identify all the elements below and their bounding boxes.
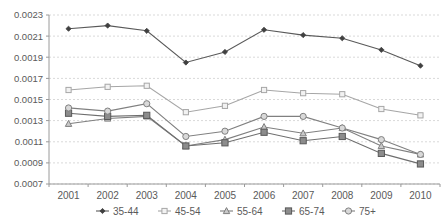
data-point bbox=[261, 113, 267, 119]
data-point bbox=[183, 143, 189, 149]
data-point bbox=[340, 36, 345, 41]
axes bbox=[46, 15, 440, 187]
data-point bbox=[417, 161, 423, 167]
data-series-group bbox=[65, 23, 423, 167]
data-point bbox=[222, 128, 228, 134]
data-point bbox=[300, 113, 306, 119]
line-chart: 0.00230.00210.00190.00170.00150.00130.00… bbox=[0, 0, 445, 223]
x-tick-label: 2008 bbox=[331, 190, 354, 201]
data-point bbox=[183, 133, 189, 139]
x-tick-label: 2006 bbox=[253, 190, 276, 201]
data-point bbox=[261, 27, 266, 32]
data-point bbox=[340, 92, 345, 97]
series-line bbox=[69, 104, 421, 155]
x-tick-label: 2010 bbox=[409, 190, 432, 201]
x-axis-tick-labels: 2001200220032004200520062007200820092010 bbox=[57, 190, 432, 201]
series-65-74 bbox=[65, 110, 423, 167]
legend-item-75+[interactable]: 75+ bbox=[342, 206, 376, 217]
legend-item-label: 55-64 bbox=[237, 206, 263, 217]
y-tick-label: 0.0015 bbox=[14, 94, 43, 105]
x-tick-label: 2003 bbox=[136, 190, 159, 201]
data-point bbox=[378, 137, 384, 143]
data-point bbox=[379, 47, 384, 52]
data-point bbox=[417, 151, 423, 157]
legend-item-label: 65-74 bbox=[299, 206, 325, 217]
data-point bbox=[66, 26, 71, 31]
legend-item-label: 75+ bbox=[359, 206, 376, 217]
data-point bbox=[65, 105, 71, 111]
y-tick-label: 0.0013 bbox=[14, 115, 43, 126]
data-point bbox=[261, 87, 266, 92]
data-point bbox=[379, 106, 384, 111]
data-point bbox=[418, 113, 423, 118]
data-point bbox=[222, 49, 227, 54]
x-tick-label: 2007 bbox=[292, 190, 315, 201]
legend-marker-icon bbox=[345, 208, 351, 214]
data-point bbox=[301, 32, 306, 37]
data-point bbox=[105, 108, 111, 114]
x-tick-label: 2009 bbox=[370, 190, 393, 201]
data-point bbox=[378, 143, 384, 149]
legend-marker-icon bbox=[100, 208, 105, 213]
data-point bbox=[105, 23, 110, 28]
legend-item-55-64[interactable]: 55-64 bbox=[220, 206, 263, 217]
x-tick-label: 2001 bbox=[57, 190, 80, 201]
data-point bbox=[144, 83, 149, 88]
series-35-44 bbox=[66, 23, 423, 68]
data-point bbox=[144, 112, 150, 118]
y-tick-label: 0.0023 bbox=[14, 9, 43, 20]
data-point bbox=[66, 87, 71, 92]
y-tick-label: 0.0007 bbox=[14, 178, 43, 189]
legend-item-65-74[interactable]: 65-74 bbox=[282, 206, 325, 217]
y-tick-label: 0.0021 bbox=[14, 31, 43, 42]
legend-item-45-54[interactable]: 45-54 bbox=[158, 206, 201, 217]
series-line bbox=[69, 86, 421, 116]
x-tick-label: 2002 bbox=[97, 190, 120, 201]
legend-item-label: 45-54 bbox=[175, 206, 201, 217]
data-point bbox=[105, 84, 110, 89]
data-point bbox=[222, 140, 228, 146]
data-point bbox=[300, 138, 306, 144]
legend-marker-icon bbox=[285, 208, 291, 214]
data-point bbox=[183, 110, 188, 115]
y-tick-label: 0.0009 bbox=[14, 157, 43, 168]
y-tick-label: 0.0019 bbox=[14, 52, 43, 63]
legend-marker-icon bbox=[162, 208, 167, 213]
y-tick-label: 0.0011 bbox=[15, 136, 43, 147]
chart-canvas: 0.00230.00210.00190.00170.00150.00130.00… bbox=[0, 0, 445, 223]
data-point bbox=[339, 125, 345, 131]
data-point bbox=[418, 63, 423, 68]
legend-item-35-44[interactable]: 35-44 bbox=[96, 206, 139, 217]
data-point bbox=[261, 129, 267, 135]
x-tick-label: 2005 bbox=[214, 190, 237, 201]
data-point bbox=[222, 103, 227, 108]
series-line bbox=[69, 26, 421, 66]
y-axis-tick-labels: 0.00230.00210.00190.00170.00150.00130.00… bbox=[14, 9, 43, 189]
data-point bbox=[144, 101, 150, 107]
data-point bbox=[339, 133, 345, 139]
series-55-64 bbox=[65, 113, 423, 157]
data-point bbox=[301, 91, 306, 96]
legend-item-label: 35-44 bbox=[113, 206, 139, 217]
series-45-54 bbox=[66, 83, 423, 118]
x-tick-label: 2004 bbox=[175, 190, 198, 201]
data-point bbox=[378, 150, 384, 156]
y-tick-label: 0.0017 bbox=[14, 73, 43, 84]
chart-legend: 35-4445-5455-6465-7475+ bbox=[96, 206, 376, 217]
